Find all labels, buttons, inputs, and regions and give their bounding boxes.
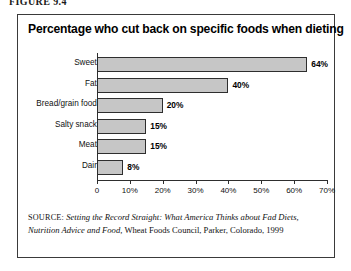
x-axis-tick [196,180,197,184]
bar-value-label: 40% [228,80,249,90]
x-axis-tick [163,180,164,184]
bar-category-label: Salty snacks [0,120,101,129]
x-axis-tick-label: 50% [253,186,269,195]
bar-row: Dairy8% [18,160,336,175]
source-note: SOURCE: Setting the Record Straight: Wha… [28,211,324,236]
x-axis-tick-label: 10% [122,186,138,195]
x-axis-tick-label: 70% [319,186,335,195]
bar-chart-plot: Sweets64%Fats40%Bread/grain foods20%Salt… [18,53,336,203]
x-axis-tick-label: 0 [95,186,99,195]
bar-row: Salty snacks15% [18,119,336,134]
bar-category-label: Sweets [0,58,101,67]
figure-caption: FIGURE 9.4 [9,0,67,7]
bar-track: 64% [97,57,327,72]
bar-value-label: 8% [123,162,139,172]
bar[interactable] [97,78,228,93]
bar-track: 15% [97,139,327,154]
chart-title: Percentage who cut back on specific food… [28,22,344,36]
bar-track: 15% [97,119,327,134]
bar-category-label: Meats [0,140,101,149]
bar[interactable] [97,98,163,113]
x-axis-tick [97,180,98,184]
bar-track: 20% [97,98,327,113]
bar-value-label: 20% [163,100,184,110]
x-axis-tick [327,180,328,184]
bar-category-label: Fats [0,79,101,88]
figure-frame: Percentage who cut back on specific food… [17,14,335,258]
source-publisher: Wheat Foods Council, Parker, Colorado, 1… [124,225,283,235]
bar[interactable] [97,139,146,154]
x-axis-tick [261,180,262,184]
bar-row: Fats40% [18,78,336,93]
bar-value-label: 15% [146,141,167,151]
x-axis-tick-label: 60% [286,186,302,195]
bar[interactable] [97,119,146,134]
bar-track: 40% [97,78,327,93]
x-axis-line [97,180,327,181]
bar-value-label: 15% [146,121,167,131]
bar-row: Meats15% [18,139,336,154]
x-axis-tick [130,180,131,184]
x-axis-tick-label: 20% [155,186,171,195]
bar-row: Bread/grain foods20% [18,98,336,113]
source-label: SOURCE: [28,213,64,222]
bar[interactable] [97,160,123,175]
bar[interactable] [97,57,307,72]
bar-value-label: 64% [307,59,328,69]
x-axis-tick-label: 30% [188,186,204,195]
bar-track: 8% [97,160,327,175]
bar-row: Sweets64% [18,57,336,72]
x-axis-tick-label: 40% [220,186,236,195]
bar-category-label: Bread/grain foods [0,99,101,108]
bar-category-label: Dairy [0,161,101,170]
x-axis-tick [294,180,295,184]
x-axis-tick [228,180,229,184]
